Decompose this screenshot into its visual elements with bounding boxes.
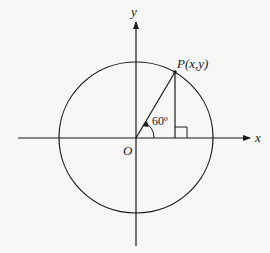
point-p-label: P(x,y) bbox=[176, 56, 208, 71]
radius-line bbox=[136, 72, 175, 138]
unit-circle-diagram: y x O P(x,y) 60º bbox=[0, 0, 270, 253]
origin-label: O bbox=[123, 143, 133, 158]
right-angle-marker bbox=[175, 127, 187, 138]
angle-label: 60º bbox=[152, 114, 168, 128]
x-axis-label: x bbox=[254, 130, 261, 145]
y-axis-label: y bbox=[129, 4, 137, 19]
